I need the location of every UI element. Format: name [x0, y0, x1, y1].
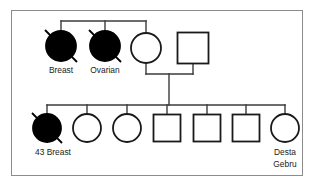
person-g1-p2[interactable]: Ovarian [89, 30, 121, 75]
person-g1-p4[interactable] [178, 33, 209, 64]
male-symbol-unaffected[interactable] [194, 115, 221, 142]
person-g2-p6[interactable] [233, 115, 260, 142]
person-g1-p1[interactable]: Breast [45, 30, 77, 75]
person-g2-p4[interactable] [154, 115, 181, 142]
person-g2-p2[interactable] [73, 114, 101, 142]
person-label-g1-p1: Breast [49, 65, 74, 75]
person-g2-p3[interactable] [113, 114, 141, 142]
pedigree-diagram: Breast Ovarian [0, 0, 314, 184]
person-label-g2-p1: 43 Breast [35, 147, 72, 157]
female-symbol-unaffected[interactable] [113, 114, 141, 142]
male-symbol-unaffected[interactable] [233, 115, 260, 142]
male-symbol-unaffected[interactable] [178, 33, 209, 64]
female-symbol-unaffected[interactable] [271, 114, 299, 142]
person-label-g1-p2: Ovarian [90, 65, 120, 75]
male-symbol-unaffected[interactable] [154, 115, 181, 142]
person-g2-p5[interactable] [194, 115, 221, 142]
person-label-g2-p7-line1: Desta [274, 147, 296, 157]
female-symbol-unaffected[interactable] [73, 114, 101, 142]
person-label-g2-p7-line2: Gebru [273, 159, 297, 169]
female-symbol-unaffected[interactable] [131, 33, 161, 63]
person-g1-p3[interactable] [131, 33, 161, 63]
pedigree-chart: Breast Ovarian [0, 0, 314, 184]
